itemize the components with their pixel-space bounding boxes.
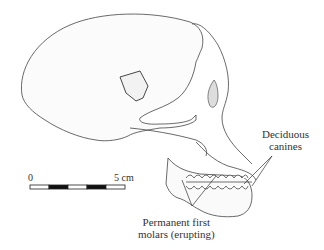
label-permanent-first-molars: Permanent first molars (erupting) bbox=[138, 216, 215, 240]
label-line: molars (erupting) bbox=[138, 228, 215, 240]
scale-bar bbox=[30, 185, 125, 189]
scale-end-label: 5 cm bbox=[114, 172, 134, 183]
zygomatic-arch bbox=[130, 128, 207, 156]
scale-start-label: 0 bbox=[28, 172, 33, 183]
label-line: canines bbox=[262, 140, 309, 152]
cranium-outline bbox=[21, 14, 202, 141]
orbit bbox=[208, 80, 218, 107]
label-deciduous-canines: Deciduous canines bbox=[262, 128, 309, 152]
label-line: Permanent first bbox=[138, 216, 215, 228]
label-line: Deciduous bbox=[262, 128, 309, 140]
skull-illustration bbox=[0, 0, 324, 250]
